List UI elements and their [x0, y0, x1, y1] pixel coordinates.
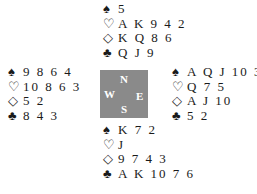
heart-icon: ♡: [103, 17, 116, 32]
diamond-icon: ◇: [103, 152, 116, 167]
diamond-icon: ◇: [103, 31, 116, 46]
west-hand: ♠9 8 6 4 ♡10 8 6 3 ◇5 2 ♣8 4 3: [8, 65, 81, 123]
south-spades: ♠K 7 2: [103, 123, 195, 138]
east-clubs: ♣5 2: [172, 109, 257, 124]
west-hearts: ♡10 8 6 3: [8, 80, 81, 95]
east-diamonds: ◇A J 10: [172, 94, 257, 109]
compass-west-label: W: [104, 89, 115, 100]
club-icon: ♣: [103, 167, 116, 182]
west-diamonds: ◇5 2: [8, 94, 81, 109]
north-clubs: ♣Q J 9: [103, 46, 187, 61]
east-hand: ♠A Q J 10 3 ♡Q 7 5 ◇A J 10 ♣5 2: [172, 65, 257, 123]
heart-icon: ♡: [172, 80, 185, 95]
diamond-icon: ◇: [8, 94, 21, 109]
heart-icon: ♡: [8, 80, 21, 95]
north-diamonds: ◇K Q 8 6: [103, 31, 187, 46]
west-clubs: ♣8 4 3: [8, 109, 81, 124]
diamond-icon: ◇: [172, 94, 185, 109]
compass-east-label: E: [136, 91, 143, 102]
south-hearts: ♡J: [103, 138, 195, 153]
club-icon: ♣: [103, 46, 116, 61]
compass-north-label: N: [120, 74, 128, 85]
east-hearts: ♡Q 7 5: [172, 80, 257, 95]
east-spades: ♠A Q J 10 3: [172, 65, 257, 80]
spade-icon: ♠: [8, 65, 21, 80]
club-icon: ♣: [172, 109, 185, 124]
spade-icon: ♠: [103, 123, 116, 138]
west-spades: ♠9 8 6 4: [8, 65, 81, 80]
heart-icon: ♡: [103, 138, 116, 153]
compass-south-label: S: [121, 104, 127, 115]
north-spades: ♠5: [103, 2, 187, 17]
spade-icon: ♠: [103, 2, 116, 17]
south-hand: ♠K 7 2 ♡J ◇9 7 4 3 ♣A K 10 7 6: [103, 123, 195, 181]
south-diamonds: ◇9 7 4 3: [103, 152, 195, 167]
compass-table: N W E S: [100, 70, 148, 118]
club-icon: ♣: [8, 109, 21, 124]
spade-icon: ♠: [172, 65, 185, 80]
north-hearts: ♡A K 9 4 2: [103, 17, 187, 32]
south-clubs: ♣A K 10 7 6: [103, 167, 195, 182]
north-hand: ♠5 ♡A K 9 4 2 ◇K Q 8 6 ♣Q J 9: [103, 2, 187, 60]
